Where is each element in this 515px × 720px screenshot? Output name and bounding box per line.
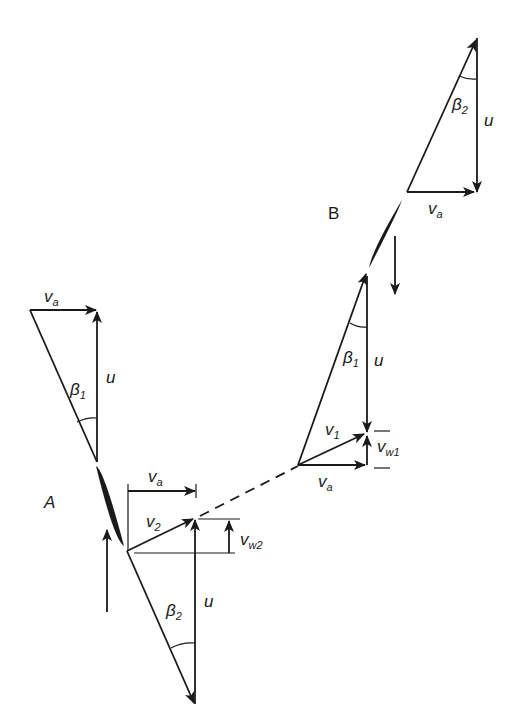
relative-velocity-arrow-a-outlet <box>127 551 194 703</box>
v1-label: v1 <box>325 420 340 441</box>
u-label-b-inlet: u <box>374 351 384 370</box>
inlet-triangle-b: β1 u v1 vw1 va <box>298 274 400 493</box>
station-a-label: A <box>43 493 55 512</box>
outlet-triangle-a: va v2 β2 u vw2 <box>127 467 263 704</box>
u-label-a-inlet: u <box>106 368 116 387</box>
inlet-triangle-a: va u β1 <box>30 287 116 462</box>
beta2-angle-arc-b <box>459 76 477 79</box>
vw1-label: vw1 <box>377 437 400 458</box>
va-label-b-inlet: va <box>318 472 333 493</box>
beta1-label-a: β1 <box>69 380 86 401</box>
blade-a <box>96 466 124 546</box>
beta2-label-a: β2 <box>165 601 182 622</box>
v2-label: v2 <box>146 512 161 533</box>
u-label-b-outlet: u <box>484 111 494 130</box>
beta2-angle-arc-a <box>171 643 195 648</box>
va-label-a-outlet: va <box>148 467 163 488</box>
beta2-label-b: β2 <box>451 95 468 116</box>
relative-velocity-line-a-inlet <box>30 310 97 462</box>
va-label-a-inlet: va <box>44 287 59 308</box>
outlet-triangle-b: β2 u va <box>407 38 494 220</box>
dashed-connector <box>200 466 298 516</box>
vw2-label: vw2 <box>240 530 263 551</box>
blade-b <box>369 200 402 268</box>
relative-velocity-arrow-b-outlet <box>407 40 476 192</box>
station-b-label: B <box>328 204 339 223</box>
beta1-angle-arc-b <box>350 323 367 327</box>
va-label-b-outlet: va <box>428 199 443 220</box>
velocity-triangle-diagram: va u β1 A va v2 β2 u vw2 <box>0 0 515 720</box>
beta1-label-b: β1 <box>342 348 359 369</box>
u-label-a-outlet: u <box>204 592 214 611</box>
